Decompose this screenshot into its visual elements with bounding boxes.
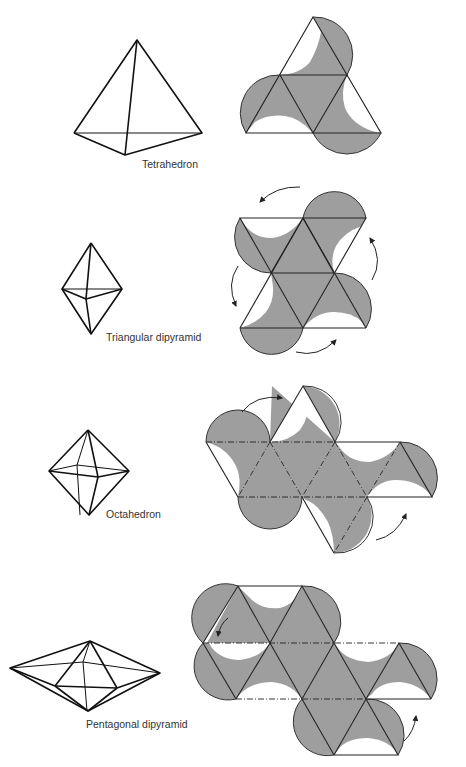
pentagonal-dipyramid-solid: [10, 641, 160, 711]
pentagonal-dipyramid-net: [192, 584, 437, 756]
pentagonal-dipyramid-label: Pentagonal dipyramid: [86, 718, 188, 730]
tetrahedron-solid: [74, 40, 202, 155]
triangular-dipyramid-label: Triangular dipyramid: [106, 331, 201, 343]
triangular-dipyramid-solid: [62, 243, 122, 334]
triangular-dipyramid-net: [235, 192, 372, 355]
octahedron-net: [206, 386, 437, 553]
tetrahedron-label: Tetrahedron: [142, 158, 198, 170]
octahedron-solid: [49, 430, 129, 515]
tetrahedron-net: [240, 17, 381, 154]
octahedron-label: Octahedron: [106, 508, 161, 520]
